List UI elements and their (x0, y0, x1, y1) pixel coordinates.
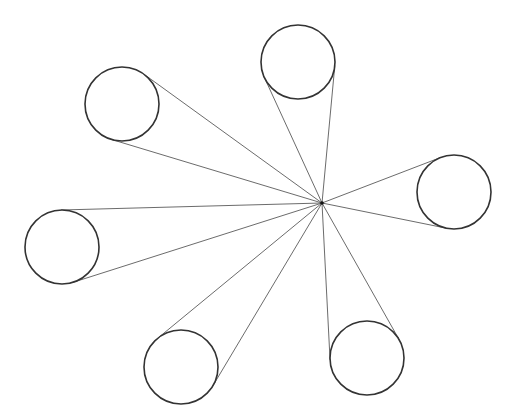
tangent-line-bottom-left-2 (157, 203, 322, 338)
circle-right (417, 155, 491, 229)
focal-point (320, 201, 324, 205)
tangent-line-left-1 (73, 203, 322, 282)
circles-group (25, 25, 491, 404)
tangent-line-bottom-right-2 (322, 203, 330, 360)
tangent-line-bottom-left-1 (213, 203, 322, 386)
tangent-line-bottom-right-1 (322, 203, 399, 340)
circle-top (261, 25, 335, 99)
circle-left (25, 210, 99, 284)
circle-bottom-right (330, 321, 404, 395)
tangent-circles-diagram (0, 0, 515, 418)
tangent-line-left-2 (61, 203, 322, 210)
tangent-line-upper-left-1 (111, 139, 322, 203)
circle-upper-left (85, 67, 159, 141)
circle-bottom-left (144, 330, 218, 404)
